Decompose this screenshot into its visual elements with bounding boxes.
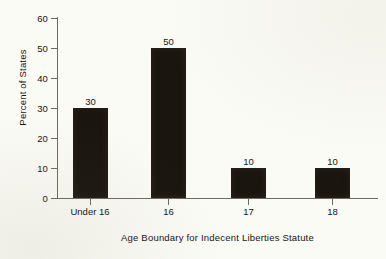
- plot-area: 0 10 20 30 40 50 60 30 50 10 10 Under 16…: [0, 0, 386, 259]
- x-tick-2: [248, 199, 249, 205]
- y-tick-label-60: 60: [28, 13, 48, 24]
- x-axis-title: Age Boundary for Indecent Liberties Stat…: [57, 232, 378, 243]
- x-category-label-18: 18: [312, 206, 353, 217]
- y-axis-line: [57, 17, 58, 199]
- bar-value-17: 10: [228, 156, 269, 167]
- bar-value-under-16: 30: [70, 96, 111, 107]
- y-tick-20: [51, 138, 57, 139]
- y-tick-10: [51, 168, 57, 169]
- y-tick-label-20: 20: [28, 133, 48, 144]
- y-tick-40: [51, 78, 57, 79]
- x-category-label-16: 16: [148, 206, 189, 217]
- y-tick-label-30: 30: [28, 103, 48, 114]
- x-category-label-under-16: Under 16: [58, 206, 122, 217]
- x-tick-1: [168, 199, 169, 205]
- bar-under-16: [73, 108, 108, 198]
- bar-16: [151, 48, 186, 198]
- y-tick-60: [51, 18, 57, 19]
- bar-chart-figure: 0 10 20 30 40 50 60 30 50 10 10 Under 16…: [0, 0, 386, 259]
- bar-17: [231, 168, 266, 198]
- y-tick-label-10: 10: [28, 163, 48, 174]
- x-category-label-17: 17: [228, 206, 269, 217]
- y-tick-50: [51, 48, 57, 49]
- y-tick-label-40: 40: [28, 73, 48, 84]
- x-tick-0: [90, 199, 91, 205]
- y-axis-title: Percent of States: [17, 28, 28, 148]
- y-tick-30: [51, 108, 57, 109]
- x-tick-3: [332, 199, 333, 205]
- x-axis-line: [57, 198, 378, 199]
- y-tick-0: [51, 198, 57, 199]
- bar-18: [315, 168, 350, 198]
- y-tick-label-0: 0: [34, 193, 48, 204]
- bar-value-18: 10: [312, 156, 353, 167]
- y-tick-label-50: 50: [28, 43, 48, 54]
- bar-value-16: 50: [148, 36, 189, 47]
